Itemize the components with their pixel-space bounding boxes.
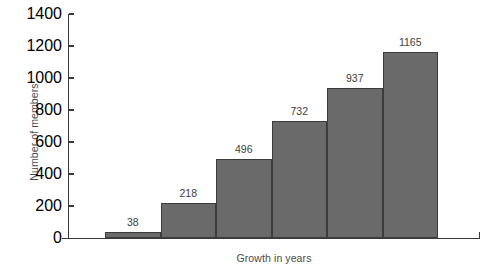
bar-value-label: 937: [317, 72, 393, 84]
bar-value-label: 496: [206, 143, 282, 155]
bar-value-label: 218: [151, 187, 227, 199]
bar-chart: Number of members 0200400600800100012001…: [0, 0, 498, 278]
bar-value-label: 1165: [373, 36, 449, 48]
bar: [272, 121, 328, 238]
bar: [161, 203, 217, 238]
bars-layer: 382184967329371165: [0, 0, 498, 278]
bar-value-label: 732: [262, 105, 338, 117]
bar: [216, 159, 272, 238]
bar-value-label: 38: [95, 216, 171, 228]
bar: [327, 88, 383, 238]
bar: [383, 52, 439, 238]
bar: [105, 232, 161, 238]
